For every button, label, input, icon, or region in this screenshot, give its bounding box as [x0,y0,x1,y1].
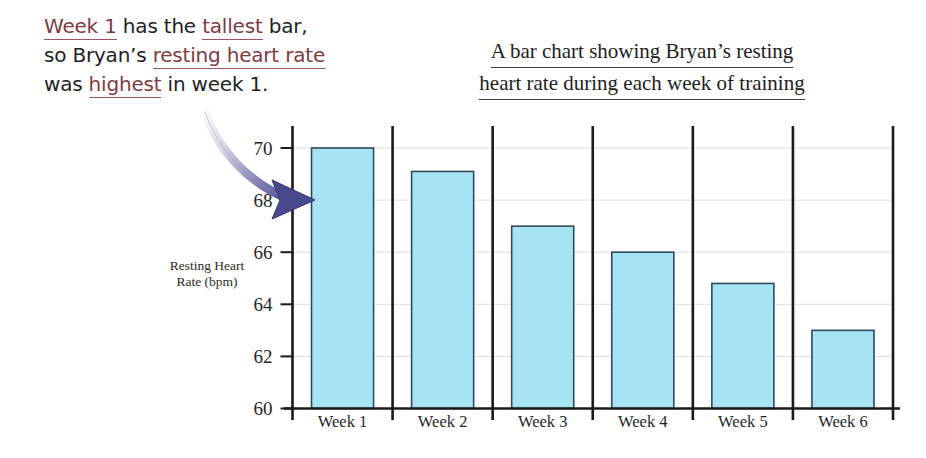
y-axis-tick-label: 62 [254,346,273,367]
x-axis-tick-label: Week 4 [618,412,668,431]
bar[interactable] [512,226,574,408]
bar[interactable] [312,148,374,409]
bar[interactable] [712,283,774,408]
bar[interactable] [612,252,674,408]
bar[interactable] [412,171,474,408]
x-axis-tick-label: Week 5 [718,412,768,431]
bar-chart-plot: 706866646260 Week 1Week 2Week 3Week 4Wee… [0,0,926,458]
x-axis-tick-label: Week 2 [418,412,468,431]
y-axis-tick-label: 66 [254,242,273,263]
x-axis-tick-label: Week 6 [818,412,868,431]
x-axis-tick-label: Week 3 [518,412,568,431]
y-axis-tick-label: 70 [254,138,273,159]
bar[interactable] [812,330,874,408]
y-axis-tick-label: 64 [254,294,274,315]
chart-page: Week 1 has the tallest bar, so Bryan’s r… [0,0,926,458]
x-axis-tick-label: Week 1 [318,412,368,431]
y-axis-tick-label: 60 [254,398,273,419]
